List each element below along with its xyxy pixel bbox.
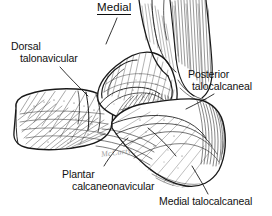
label-line-2: calcaneonavicular (72, 181, 154, 193)
label-plantar-calcaneonavicular: Plantar calcaneonavicular (62, 169, 154, 192)
label-line-2: talonavicular (20, 53, 78, 65)
label-line-1: Plantar (62, 168, 95, 180)
label-line-1: Posterior (188, 68, 229, 80)
label-dorsal-talonavicular: Dorsal talonavicular (11, 41, 78, 64)
anatomical-figure: Medial Dorsal talonavicular Posterior ta… (0, 0, 272, 216)
label-medial-talocalcaneal: Medial talocalcaneal (159, 196, 252, 208)
label-line-1: Medial talocalcaneal (159, 195, 252, 207)
figure-title: Medial (97, 1, 131, 15)
label-line-1: Dorsal (11, 40, 41, 52)
label-line-2: talocalcaneal (192, 81, 252, 93)
label-posterior-talocalcaneal: Posterior talocalcaneal (188, 69, 252, 92)
leader-medial (106, 18, 117, 44)
